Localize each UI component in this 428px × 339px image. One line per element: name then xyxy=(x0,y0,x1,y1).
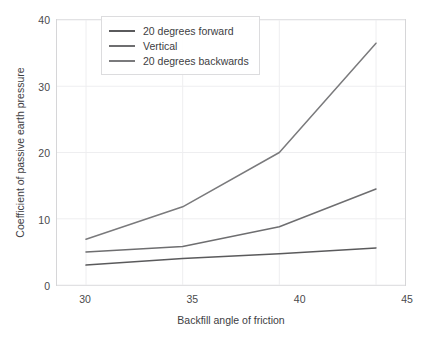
legend-item-label: 20 degrees forward xyxy=(143,25,233,37)
y-tick-label: 30 xyxy=(20,81,50,93)
x-tick-label: 40 xyxy=(280,293,320,305)
legend-item[interactable]: 20 degrees backwards xyxy=(109,53,249,68)
y-tick-label: 0 xyxy=(20,280,50,292)
y-tick-label: 20 xyxy=(20,147,50,159)
chart-legend: 20 degrees forward Vertical 20 degrees b… xyxy=(101,16,260,75)
x-axis-label: Backfill angle of friction xyxy=(56,314,406,326)
legend-line-swatch xyxy=(109,45,135,47)
series-line xyxy=(86,189,376,252)
x-tick-label: 45 xyxy=(387,293,427,305)
y-tick-label: 40 xyxy=(20,14,50,26)
x-tick-label: 30 xyxy=(65,293,105,305)
y-tick-label: 10 xyxy=(20,214,50,226)
legend-item-label: Vertical xyxy=(143,40,177,52)
legend-line-swatch xyxy=(109,60,135,62)
legend-item-label: 20 degrees backwards xyxy=(143,55,249,67)
series-line xyxy=(86,248,376,265)
x-tick-label: 35 xyxy=(172,293,212,305)
legend-item[interactable]: 20 degrees forward xyxy=(109,23,249,38)
chart-figure: Coefficient of passive earth pressure 0 … xyxy=(0,0,428,339)
legend-line-swatch xyxy=(109,30,135,32)
legend-item[interactable]: Vertical xyxy=(109,38,249,53)
